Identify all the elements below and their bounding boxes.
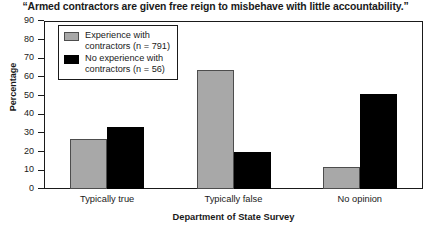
x-axis-category-label: Typically false	[170, 194, 296, 204]
x-axis-title: Department of State Survey	[44, 212, 423, 222]
bar	[360, 94, 397, 189]
y-axis-tick	[38, 188, 44, 189]
x-axis-category-label: Typically true	[44, 194, 170, 204]
y-axis-tick-label: 40	[0, 109, 34, 118]
gray-swatch-icon	[64, 32, 79, 41]
bar	[107, 127, 144, 189]
y-axis-tick	[38, 132, 44, 133]
y-axis-tick-label: 80	[0, 35, 34, 44]
y-axis-tick	[38, 151, 44, 152]
y-axis-tick-label: 90	[0, 16, 34, 25]
bar	[70, 139, 107, 189]
y-axis-tick	[38, 76, 44, 77]
y-axis-tick	[38, 114, 44, 115]
y-axis-tick	[38, 95, 44, 96]
y-axis-tick-label: 0	[0, 184, 34, 193]
y-axis-tick-label: 60	[0, 72, 34, 81]
chart-title: “Armed contractors are given free reign …	[0, 1, 431, 12]
legend-entry: Experience with contractors (n = 791)	[64, 30, 170, 51]
legend-entry: No experience with contractors (n = 56)	[64, 53, 170, 74]
x-axis-category-label: No opinion	[297, 194, 423, 204]
legend-entry-label: Experience with contractors (n = 791)	[85, 30, 170, 51]
bar	[323, 167, 360, 189]
bar	[234, 152, 271, 189]
y-axis-tick-label: 50	[0, 91, 34, 100]
y-axis-tick-label: 70	[0, 53, 34, 62]
y-axis-tick	[38, 20, 44, 21]
black-swatch-icon	[64, 55, 79, 64]
y-axis-tick-label: 20	[0, 147, 34, 156]
y-axis-tick	[38, 39, 44, 40]
chart-legend: Experience with contractors (n = 791) No…	[58, 25, 178, 80]
y-axis-tick	[38, 170, 44, 171]
y-axis-tick-label: 30	[0, 128, 34, 137]
y-axis-tick-label: 10	[0, 165, 34, 174]
y-axis-tick	[38, 58, 44, 59]
bar	[197, 70, 234, 189]
legend-entry-label: No experience with contractors (n = 56)	[85, 53, 165, 74]
bar-chart-figure: “Armed contractors are given free reign …	[0, 0, 431, 230]
